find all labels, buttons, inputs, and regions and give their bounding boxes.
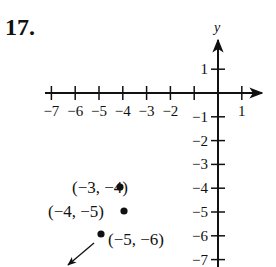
- point-label-3: (−5, −6): [108, 230, 164, 249]
- x-tick-label: 1: [238, 103, 246, 119]
- point-marker-2: [120, 207, 127, 214]
- y-tick-label: −3: [192, 156, 208, 172]
- x-tick-label: −6: [67, 103, 83, 119]
- y-tick-label: −5: [192, 204, 208, 220]
- y-tick-label: −7: [192, 252, 208, 267]
- coordinate-plane: 17. y −7−6−5−4−3−21 1−1−2−3−4−5−6−7 (−3,…: [0, 0, 276, 267]
- x-tick-label: −5: [91, 103, 107, 119]
- point-label-1: (−3, −4): [72, 178, 128, 197]
- y-tick-label: −2: [192, 133, 208, 149]
- x-tick-label: −2: [162, 103, 178, 119]
- diagram-root: 17. y −7−6−5−4−3−21 1−1−2−3−4−5−6−7 (−3,…: [0, 0, 276, 267]
- y-axis-label: y: [212, 20, 221, 35]
- problem-number: 17.: [5, 14, 35, 40]
- y-tick-label: −4: [192, 180, 208, 196]
- x-tick-label: −4: [115, 103, 131, 119]
- x-ticks: −7−6−5−4−3−21: [43, 86, 245, 119]
- y-tick-label: 1: [201, 61, 209, 77]
- y-tick-label: −6: [192, 228, 208, 244]
- trend-arrow-icon: [68, 243, 94, 265]
- point-marker-3: [97, 230, 104, 237]
- point-label-2: (−4, −5): [48, 202, 104, 221]
- x-tick-label: −7: [43, 103, 59, 119]
- x-tick-label: −3: [139, 103, 155, 119]
- y-tick-label: −1: [192, 109, 208, 125]
